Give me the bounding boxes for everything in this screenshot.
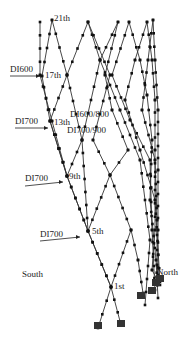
node (115, 61, 118, 64)
node (154, 149, 157, 152)
node (76, 47, 79, 50)
arrowhead-icon (44, 126, 48, 130)
node (153, 45, 156, 48)
node (154, 124, 157, 127)
node (58, 46, 61, 49)
node (155, 195, 158, 198)
node (127, 149, 130, 152)
node (91, 33, 94, 36)
node (66, 74, 69, 77)
node (51, 19, 54, 22)
node (92, 139, 95, 142)
node (154, 199, 157, 202)
node (45, 97, 48, 100)
node (90, 99, 93, 102)
north-label: North (157, 268, 178, 277)
node (118, 263, 121, 266)
foundation-supports (94, 275, 164, 329)
node (110, 286, 113, 289)
node (110, 47, 113, 50)
node (135, 132, 138, 135)
node (82, 152, 85, 155)
node (127, 85, 130, 88)
node (144, 121, 147, 124)
node (53, 133, 56, 136)
node (85, 204, 88, 207)
node (141, 109, 144, 112)
node (146, 174, 149, 177)
node (147, 109, 150, 112)
node (157, 229, 160, 232)
node (149, 124, 152, 127)
node (144, 199, 147, 202)
center-section-label: DI600/800 (70, 110, 109, 119)
node (155, 183, 158, 186)
node (156, 249, 159, 252)
node (128, 111, 131, 114)
node (151, 223, 154, 226)
node (149, 173, 152, 176)
node (122, 252, 125, 255)
node (69, 87, 72, 90)
node (142, 185, 145, 188)
node (116, 122, 119, 125)
node (111, 33, 114, 36)
node (145, 212, 148, 215)
node (126, 240, 129, 243)
node (48, 33, 51, 36)
node (145, 291, 148, 294)
node (39, 47, 42, 50)
node (41, 75, 44, 78)
node (101, 263, 104, 266)
node (83, 219, 86, 222)
node (121, 207, 124, 210)
node (154, 202, 157, 205)
node (104, 71, 107, 74)
node (74, 197, 77, 200)
node (76, 151, 79, 154)
floor-label: 5th (92, 227, 104, 236)
node (154, 229, 157, 232)
node (147, 265, 150, 268)
node (154, 162, 157, 165)
node (128, 21, 131, 24)
node (62, 85, 65, 88)
node (154, 175, 157, 178)
node (124, 121, 127, 124)
node (113, 185, 116, 188)
node (152, 253, 155, 256)
node (146, 278, 149, 281)
diagrid-member-14 (131, 230, 143, 293)
node (157, 169, 160, 172)
support-block-icon (148, 287, 156, 294)
node (154, 99, 157, 102)
node (155, 84, 158, 87)
south-label: South (22, 270, 43, 279)
node (105, 275, 108, 278)
node (96, 252, 99, 255)
floor-label: 21th (54, 14, 70, 23)
node (157, 297, 160, 300)
node (142, 33, 145, 36)
node (97, 150, 100, 153)
node (57, 97, 60, 100)
node (156, 219, 159, 222)
node (142, 145, 145, 148)
node (151, 139, 154, 142)
node (144, 84, 147, 87)
node (105, 46, 108, 49)
arrowhead-icon (59, 180, 63, 184)
node (154, 136, 157, 139)
node (91, 241, 94, 244)
node (129, 134, 132, 137)
floor-label: 9th (69, 172, 81, 181)
node (139, 159, 142, 162)
node (152, 72, 155, 75)
node (108, 97, 111, 100)
node (101, 313, 104, 316)
node (150, 211, 153, 214)
node (120, 96, 123, 99)
node (157, 121, 160, 124)
node (95, 46, 98, 49)
support-block-icon (117, 320, 125, 327)
